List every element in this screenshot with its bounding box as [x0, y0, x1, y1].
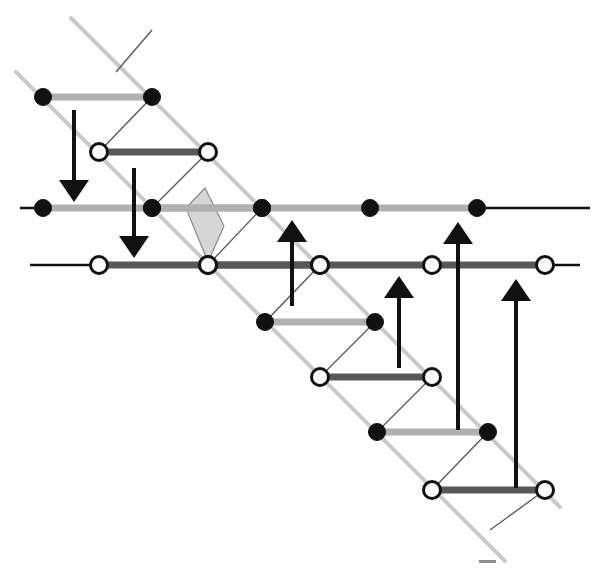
rung-7-node-left [369, 424, 386, 441]
upper-horizontal-line-node-1 [35, 200, 52, 217]
upper-horizontal-line-node-3 [254, 200, 271, 217]
rung-5-node-left [257, 314, 274, 331]
rung-5-node-right [367, 314, 384, 331]
rung-8-node-right [537, 482, 554, 499]
rung-8-node-left [424, 482, 441, 499]
lower-horizontal-line-node-3 [312, 257, 329, 274]
rung-2-node-left [91, 144, 108, 161]
diagram-canvas [0, 0, 605, 569]
rung-6-node-right [424, 369, 441, 386]
lower-horizontal-line-node-2 [200, 257, 217, 274]
upper-horizontal-line-node-4 [362, 200, 379, 217]
lower-horizontal-line-node-1 [91, 257, 108, 274]
lower-horizontal-line-node-4 [424, 257, 441, 274]
footer-mark-group [479, 560, 496, 563]
upper-horizontal-line-node-5 [469, 200, 486, 217]
diagram-svg [0, 0, 605, 569]
footer-dash-mark [479, 560, 496, 563]
rung-1-node-left [35, 89, 52, 106]
rung-7-node-right [480, 424, 497, 441]
rung-2-node-right [200, 144, 217, 161]
rung-1-node-right [144, 89, 161, 106]
rung-6-node-left [312, 369, 329, 386]
lower-horizontal-line-node-5 [537, 257, 554, 274]
upper-horizontal-line-node-2 [144, 200, 161, 217]
